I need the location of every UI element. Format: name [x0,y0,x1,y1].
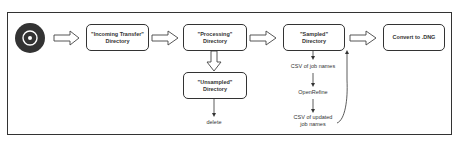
node-title: "Processing" [198,31,233,38]
incoming-transfer-directory-node: "Incoming Transfer" Directory [86,24,149,51]
delete-label: delete [204,119,224,126]
convert-to-dng-node: Convert to .DNG [383,24,445,51]
csv-updated-job-names-label: CSV of updated job names [288,114,338,128]
label-line: job names [288,121,338,128]
node-title: "Unsampled" [198,79,233,86]
node-subtitle: Directory [105,38,129,45]
node-title: "Incoming Transfer" [91,31,144,38]
node-title: Convert to .DNG [393,34,436,41]
connectors [0,0,461,141]
node-subtitle: Directory [203,38,227,45]
csv-job-names-label: CSV of job names [288,63,338,70]
openrefine-label: OpenRefine [293,89,333,96]
sampled-directory-node: "Sampled" Directory [283,24,345,51]
node-title: "Sampled" [300,31,328,38]
processing-directory-node: "Processing" Directory [183,24,247,51]
unsampled-directory-node: "Unsampled" Directory [183,72,247,99]
node-subtitle: Directory [302,38,326,45]
node-subtitle: Directory [203,86,227,93]
disc-icon [15,23,45,53]
label-line: CSV of updated [288,114,338,121]
